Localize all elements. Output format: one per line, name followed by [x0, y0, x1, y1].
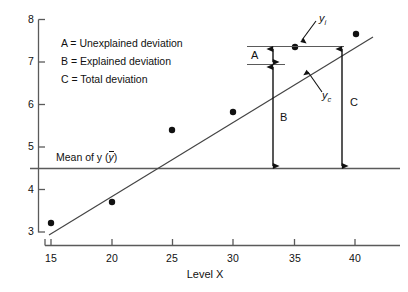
data-point — [230, 109, 236, 115]
legend-item-a: A = Unexplained deviation — [61, 38, 183, 49]
data-point — [48, 220, 54, 226]
yc-label: yc — [322, 90, 331, 104]
y-tick-label-5: 5 — [20, 141, 34, 152]
y-tick-label-8: 8 — [20, 14, 34, 25]
mean-label-suffix: ) — [114, 151, 118, 163]
x-tick-label-25: 25 — [160, 253, 184, 264]
yi-subscript: i — [325, 18, 327, 27]
x-axis — [45, 239, 400, 246]
legend-item-c: C = Total deviation — [61, 74, 148, 85]
y-tick-label-6: 6 — [20, 99, 34, 110]
annotation-label-b: B — [280, 112, 287, 123]
x-tick-label-35: 35 — [283, 253, 307, 264]
x-tick-label-15: 15 — [39, 253, 63, 264]
yi-label: yi — [319, 13, 326, 27]
yc-leader-line — [308, 72, 322, 92]
y-axis — [39, 20, 46, 233]
regression-deviation-chart: 8 7 6 5 4 3 15 20 25 30 35 40 Level X A … — [0, 0, 408, 292]
y-tick-label-4: 4 — [20, 184, 34, 195]
x-tick-label-40: 40 — [343, 253, 367, 264]
y-bar-symbol: y — [109, 152, 114, 163]
data-point — [109, 199, 115, 205]
yc-subscript: c — [328, 95, 332, 104]
x-tick-label-20: 20 — [100, 253, 124, 264]
annotation-label-c: C — [350, 97, 358, 108]
legend-item-b: B = Explained deviation — [61, 56, 171, 67]
x-axis-title: Level X — [165, 269, 245, 280]
mean-line-label: Mean of y (y) — [56, 152, 117, 163]
yi-leader-line — [302, 21, 316, 40]
data-point — [353, 31, 359, 37]
data-point — [169, 127, 175, 133]
y-tick-label-3: 3 — [20, 226, 34, 237]
x-tick-label-30: 30 — [221, 253, 245, 264]
annotation-label-a: A — [251, 50, 258, 61]
y-tick-label-7: 7 — [20, 56, 34, 67]
mean-label-prefix: Mean of y ( — [56, 151, 109, 163]
